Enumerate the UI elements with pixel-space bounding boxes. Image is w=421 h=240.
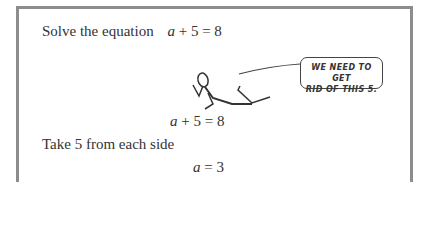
eq-plus: +: [181, 113, 189, 129]
step1-equation: a + 5 = 8: [170, 113, 224, 130]
eq-variable: a: [170, 113, 178, 129]
eq-result: 3: [216, 159, 224, 175]
step2-equation: a = 3: [193, 159, 224, 176]
speech-line-2: RID OF THIS 5.: [301, 84, 382, 95]
step2-instruction: Take 5 from each side: [42, 136, 174, 153]
speech-bubble: WE NEED TO GET RID OF THIS 5.: [300, 57, 383, 89]
eq-equals: =: [204, 159, 212, 175]
eq-variable: a: [193, 159, 201, 175]
eq-number: 5: [193, 113, 201, 129]
eq-result: 8: [217, 113, 225, 129]
speech-line-1: WE NEED TO GET: [301, 62, 382, 84]
eq-equals: =: [205, 113, 213, 129]
